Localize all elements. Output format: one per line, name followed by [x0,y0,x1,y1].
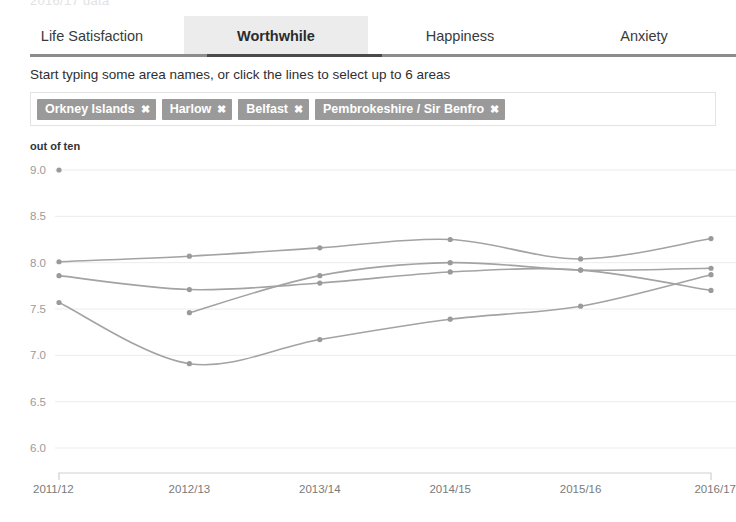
chart-data-point[interactable] [448,237,453,242]
chart-data-point[interactable] [187,361,192,366]
x-axis-tick-label: 2016/17 [694,483,736,495]
chart-data-point[interactable] [317,337,322,342]
area-search-input[interactable] [511,101,709,117]
tab-bar-active-indicator [207,54,382,57]
chart-data-point[interactable] [187,287,192,292]
area-pill-pembrokeshire-sir-benfro[interactable]: Pembrokeshire / Sir Benfro ✖ [315,99,505,120]
y-axis-tick-label: 6.0 [30,442,46,454]
x-axis-tick-label: 2015/16 [560,483,602,495]
chart-data-point[interactable] [187,310,192,315]
close-icon[interactable]: ✖ [141,104,150,115]
chart-data-point[interactable] [708,266,713,271]
y-axis-tick-label: 6.5 [30,396,46,408]
page-top-cut-text: 2016/17 data [30,0,110,8]
chart-stray-marker [56,167,61,172]
area-pill-belfast[interactable]: Belfast ✖ [238,99,309,120]
area-pill-label: Pembrokeshire / Sir Benfro [323,102,484,116]
close-icon[interactable]: ✖ [490,104,499,115]
chart-data-point[interactable] [317,245,322,250]
area-pill-label: Orkney Islands [45,102,135,116]
worthwhile-line-chart[interactable]: 9.08.58.07.57.06.56.02011/122012/132013/… [0,155,736,515]
area-pill-label: Belfast [246,102,288,116]
chart-data-point[interactable] [448,269,453,274]
chart-data-point[interactable] [578,304,583,309]
area-pill-label: Harlow [170,102,212,116]
chart-data-point[interactable] [56,259,61,264]
selection-instruction: Start typing some area names, or click t… [30,67,450,82]
x-axis-tick-label: 2011/12 [33,483,74,495]
chart-series-line[interactable] [59,275,711,365]
y-axis-unit-label: out of ten [30,140,80,152]
y-axis-tick-label: 7.0 [30,349,46,361]
tab-worthwhile[interactable]: Worthwhile [184,16,368,56]
y-axis-tick-label: 8.0 [30,257,46,269]
chart-data-point[interactable] [448,260,453,265]
chart-canvas: 9.08.58.07.57.06.56.02011/122012/132013/… [0,155,736,515]
chart-data-point[interactable] [56,300,61,305]
tab-anxiety[interactable]: Anxiety [552,16,736,56]
area-pill-orkney-islands[interactable]: Orkney Islands ✖ [37,99,156,120]
tab-bar-underline [30,54,736,57]
chart-data-point[interactable] [448,317,453,322]
chart-data-point[interactable] [578,256,583,261]
chart-data-point[interactable] [708,236,713,241]
area-pill-harlow[interactable]: Harlow ✖ [162,99,233,120]
y-axis-tick-label: 7.5 [30,303,46,315]
close-icon[interactable]: ✖ [217,104,226,115]
chart-data-point[interactable] [317,273,322,278]
close-icon[interactable]: ✖ [294,104,303,115]
chart-series-line[interactable] [59,239,711,262]
tab-life-satisfaction[interactable]: Life Satisfaction [0,16,184,56]
chart-data-point[interactable] [187,254,192,259]
chart-data-point[interactable] [317,280,322,285]
x-axis-tick-label: 2012/13 [169,483,211,495]
y-axis-tick-label: 8.5 [30,210,46,222]
chart-data-point[interactable] [708,272,713,277]
chart-data-point[interactable] [56,273,61,278]
x-axis-tick-label: 2014/15 [429,483,471,495]
area-selection-box[interactable]: Orkney Islands ✖ Harlow ✖ Belfast ✖ Pemb… [30,92,716,126]
tab-bar: Life Satisfaction Worthwhile Happiness A… [0,16,736,56]
x-axis-line [59,473,711,480]
tab-happiness[interactable]: Happiness [368,16,552,56]
chart-series-line[interactable] [59,269,711,291]
x-axis-tick-label: 2013/14 [299,483,341,495]
y-axis-tick-label: 9.0 [30,164,46,176]
chart-data-point[interactable] [708,288,713,293]
chart-data-point[interactable] [578,267,583,272]
